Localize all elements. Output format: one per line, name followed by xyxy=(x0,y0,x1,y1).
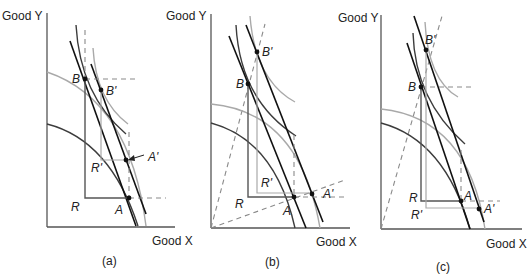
point-b-prime xyxy=(255,50,260,55)
point-a xyxy=(292,195,297,200)
point-a-prime xyxy=(124,158,129,163)
panel-caption: (a) xyxy=(102,254,117,268)
point-a xyxy=(459,199,464,204)
label-a-prime: A' xyxy=(322,187,334,201)
label-b: B xyxy=(408,80,416,94)
label-a: A xyxy=(114,203,123,217)
label-a: A xyxy=(282,204,291,218)
panel-caption: (c) xyxy=(436,260,450,274)
point-a-prime xyxy=(477,207,482,212)
label-r: R xyxy=(71,200,80,214)
label-a: A xyxy=(463,189,472,203)
three-panel-diagram: Good Y Good X (a) B B' A' R' R A xyxy=(0,0,528,274)
point-a xyxy=(127,196,132,201)
label-b: B xyxy=(236,77,244,91)
label-a-prime: A' xyxy=(483,202,495,216)
label-a-prime: A' xyxy=(147,150,159,164)
panel-b: Good Y Good X (b) B' B R' A' R A xyxy=(166,9,357,269)
panel-c: Good Y Good X (c) B' B R A R' A' xyxy=(338,11,527,274)
point-b xyxy=(246,82,251,87)
point-b xyxy=(419,85,424,90)
label-b-prime: B' xyxy=(106,84,117,98)
label-r: R xyxy=(409,191,418,205)
label-r: R xyxy=(235,197,244,211)
label-r-prime: R' xyxy=(411,208,423,222)
price-line-shifted xyxy=(91,64,146,214)
ppf-shifted xyxy=(47,72,146,226)
point-a-prime xyxy=(310,192,315,197)
ppf-original xyxy=(47,124,138,226)
ppf-shifted xyxy=(381,109,485,229)
y-axis-label: Good Y xyxy=(166,9,206,23)
x-axis-label: Good X xyxy=(316,235,357,249)
x-axis-label: Good X xyxy=(486,237,527,251)
point-b-prime xyxy=(99,88,104,93)
y-axis-label: Good Y xyxy=(2,9,42,23)
label-r-prime: R' xyxy=(261,176,273,190)
label-b-prime: B' xyxy=(425,33,436,47)
y-axis-label: Good Y xyxy=(338,11,378,25)
point-b xyxy=(83,77,88,82)
panel-caption: (b) xyxy=(265,255,280,269)
label-r-prime: R' xyxy=(91,161,103,175)
indifference-curve-original xyxy=(236,25,296,136)
label-b: B xyxy=(72,72,80,86)
panel-a: Good Y Good X (a) B B' A' R' R A xyxy=(2,9,193,268)
label-b-prime: B' xyxy=(262,45,273,59)
x-axis-label: Good X xyxy=(152,234,193,248)
point-b-prime xyxy=(424,48,429,53)
